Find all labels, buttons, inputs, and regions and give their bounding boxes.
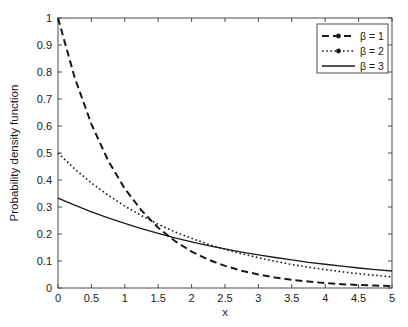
y-tick-label: 0.8: [37, 66, 52, 78]
y-tick-label: 0.4: [37, 174, 52, 186]
y-tick-label: 0.6: [37, 120, 52, 132]
x-tick-label: 1.5: [151, 292, 166, 304]
x-tick-label: 1: [122, 292, 128, 304]
x-tick-label: 3.5: [284, 292, 299, 304]
y-tick-label: 0: [46, 282, 52, 294]
x-axis-title: x: [222, 306, 228, 318]
x-tick-label: 0: [55, 292, 61, 304]
chart-plot: 00.10.20.30.40.50.60.70.80.91 00.511.522…: [0, 0, 408, 327]
figure-canvas: 00.10.20.30.40.50.60.70.80.91 00.511.522…: [0, 0, 408, 327]
curve-series-3: [58, 198, 392, 271]
y-tick-label: 1: [46, 12, 52, 24]
y-tick-label: 0.3: [37, 201, 52, 213]
y-tick-label: 0.9: [37, 39, 52, 51]
legend-label: β = 3: [360, 60, 384, 72]
chart-legend[interactable]: β = 1β = 2β = 3: [317, 24, 388, 73]
x-tick-label: 2.5: [217, 292, 232, 304]
y-tick-label: 0.1: [37, 255, 52, 267]
legend-label: β = 2: [360, 45, 384, 57]
y-axis-tick-labels: 00.10.20.30.40.50.60.70.80.91: [37, 12, 52, 294]
legend-marker-icon: [336, 49, 341, 54]
x-tick-label: 2: [189, 292, 195, 304]
y-tick-label: 0.7: [37, 93, 52, 105]
y-axis-title: Probability density function: [8, 85, 20, 222]
x-tick-label: 4.5: [351, 292, 366, 304]
x-axis-tick-labels: 00.511.522.533.544.55: [55, 292, 395, 304]
x-tick-label: 3: [255, 292, 261, 304]
curve-series-2: [58, 153, 392, 277]
legend-label: β = 1: [360, 30, 384, 42]
y-tick-label: 0.2: [37, 228, 52, 240]
x-tick-label: 5: [389, 292, 395, 304]
y-tick-label: 0.5: [37, 147, 52, 159]
x-tick-label: 0.5: [84, 292, 99, 304]
legend-marker-icon: [336, 34, 341, 39]
x-tick-label: 4: [322, 292, 328, 304]
